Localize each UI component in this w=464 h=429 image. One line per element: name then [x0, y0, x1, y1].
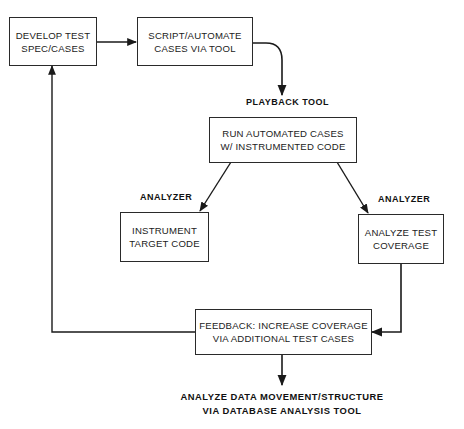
node-script-automate: SCRIPT/AUTOMATE CASES VIA TOOL [137, 17, 253, 66]
arrow-analyze-to-feedback [372, 264, 401, 332]
arrow-run-to-analyze [337, 162, 368, 213]
flow-diagram: DEVELOP TEST SPEC/CASES SCRIPT/AUTOMATE … [0, 0, 464, 429]
node-text-line1: SCRIPT/AUTOMATE [148, 29, 241, 42]
node-text-line2: W/ INSTRUMENTED CODE [221, 140, 346, 153]
node-text-line2: TARGET CODE [129, 237, 200, 250]
node-text-line1: FEEDBACK: INCREASE COVERAGE [199, 319, 368, 332]
arrow-script-to-run [253, 43, 282, 95]
node-text-line1: INSTRUMENT [132, 224, 197, 237]
arrow-run-to-instrument [200, 162, 231, 211]
caption-line1: ANALYZE DATA MOVEMENT/STRUCTURE [132, 390, 432, 404]
node-text-line2: COVERAGE [373, 239, 429, 252]
label-analyzer-left: ANALYZER [140, 192, 192, 202]
node-text-line2: SPEC/CASES [21, 42, 84, 55]
node-run-automated-cases: RUN AUTOMATED CASES W/ INSTRUMENTED CODE [209, 117, 357, 163]
node-text-line2: CASES VIA TOOL [154, 42, 235, 55]
node-develop-test-spec: DEVELOP TEST SPEC/CASES [9, 17, 97, 66]
node-feedback-increase-coverage: FEEDBACK: INCREASE COVERAGE VIA ADDITION… [195, 309, 372, 355]
node-text-line2: VIA ADDITIONAL TEST CASES [213, 332, 354, 345]
caption-line2: VIA DATABASE ANALYSIS TOOL [132, 404, 432, 418]
label-analyzer-right: ANALYZER [378, 194, 430, 204]
node-text-line1: ANALYZE TEST [365, 226, 437, 239]
node-text-line1: DEVELOP TEST [16, 29, 91, 42]
caption-analyze-data-movement: ANALYZE DATA MOVEMENT/STRUCTURE VIA DATA… [132, 390, 432, 418]
node-instrument-target-code: INSTRUMENT TARGET CODE [120, 212, 209, 262]
node-analyze-test-coverage: ANALYZE TEST COVERAGE [358, 214, 444, 264]
label-playback-tool: PLAYBACK TOOL [246, 97, 329, 107]
node-text-line1: RUN AUTOMATED CASES [222, 127, 343, 140]
